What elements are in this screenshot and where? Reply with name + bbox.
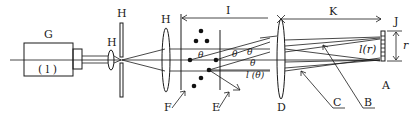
label-B: B bbox=[364, 96, 372, 109]
pinhole: H bbox=[117, 7, 127, 97]
fourier-lens: D bbox=[277, 15, 286, 114]
dimension-r: r bbox=[387, 31, 409, 61]
small-lens: H bbox=[107, 36, 117, 70]
svg-text:θ: θ bbox=[232, 49, 238, 59]
detector-array: A J l(r) bbox=[359, 15, 398, 92]
scattered-rays: θ θ θ θ l (θ) bbox=[190, 38, 270, 90]
label-H-pinhole: H bbox=[117, 7, 127, 20]
label-r: r bbox=[403, 39, 409, 52]
label-E: E bbox=[212, 101, 220, 114]
label-H-large: H bbox=[161, 13, 171, 26]
label-I: I bbox=[226, 4, 230, 17]
label-F-group: F bbox=[164, 91, 185, 114]
label-G: G bbox=[44, 28, 53, 41]
label-F: F bbox=[164, 101, 172, 114]
svg-text:θ: θ bbox=[198, 50, 204, 60]
dimension-K: K bbox=[281, 5, 381, 22]
laser-source: G ( l ) bbox=[24, 28, 108, 76]
label-G-inner: ( l ) bbox=[38, 63, 57, 76]
label-C-group: C bbox=[301, 71, 345, 109]
label-I-theta: l (θ) bbox=[246, 70, 265, 80]
svg-text:θ: θ bbox=[247, 47, 253, 57]
label-A: A bbox=[381, 79, 391, 92]
label-E-group: E bbox=[212, 92, 229, 114]
collimating-lens: H bbox=[161, 13, 171, 92]
label-D: D bbox=[277, 101, 286, 114]
label-C: C bbox=[333, 96, 341, 109]
dimension-I: I bbox=[182, 4, 268, 21]
label-I-r: l(r) bbox=[359, 43, 376, 56]
label-H-small: H bbox=[107, 36, 117, 49]
optical-diagram: G ( l ) H H H I bbox=[0, 0, 413, 120]
label-J: J bbox=[393, 15, 398, 28]
svg-text:θ: θ bbox=[250, 58, 256, 68]
label-K: K bbox=[329, 5, 338, 18]
